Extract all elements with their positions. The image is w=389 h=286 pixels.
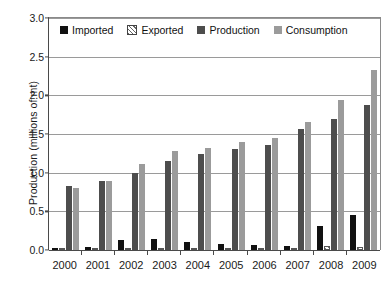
bar-group: [148, 18, 181, 250]
bar-consumption-2009[interactable]: [371, 70, 377, 250]
bar-wrap: [49, 18, 82, 250]
bar-group: [248, 18, 281, 250]
bar-group: [82, 18, 115, 250]
bar-wrap: [248, 18, 281, 250]
bar-wrap: [347, 18, 380, 250]
y-tick-label: 0.5: [29, 205, 44, 217]
y-tick-label: 3.0: [29, 12, 44, 24]
bar-exported-2006[interactable]: [258, 248, 264, 250]
bar-imported-2001[interactable]: [85, 247, 91, 250]
x-tick-label-2005: 2005: [214, 254, 247, 276]
bar-wrap: [314, 18, 347, 250]
bar-groups: [49, 18, 380, 250]
bar-consumption-2003[interactable]: [172, 151, 178, 250]
bar-exported-2005[interactable]: [225, 248, 231, 250]
bar-group: [214, 18, 247, 250]
bar-imported-2008[interactable]: [317, 226, 323, 250]
bar-imported-2004[interactable]: [184, 242, 190, 251]
bar-exported-2008[interactable]: [324, 246, 330, 250]
x-tick-label-2000: 2000: [48, 254, 81, 276]
x-tick-label-2006: 2006: [248, 254, 281, 276]
x-tick-label-2009: 2009: [348, 254, 381, 276]
bar-group: [115, 18, 148, 250]
x-tick-label-2004: 2004: [181, 254, 214, 276]
bar-group: [281, 18, 314, 250]
plot-area: 0.00.51.01.52.02.53.0: [48, 17, 381, 250]
bar-exported-2004[interactable]: [191, 248, 197, 250]
bar-chart-figure: Production (millions of mt) ImportedExpo…: [0, 0, 389, 286]
x-tick-label-2003: 2003: [148, 254, 181, 276]
y-tick-label: 0.0: [29, 244, 44, 256]
bar-imported-2007[interactable]: [284, 246, 290, 250]
bar-wrap: [82, 18, 115, 250]
bar-imported-2000[interactable]: [52, 248, 58, 250]
bar-wrap: [281, 18, 314, 250]
bar-production-2009[interactable]: [364, 105, 370, 250]
gridline: [49, 250, 380, 251]
y-tick-label: 1.5: [29, 128, 44, 140]
bar-group: [314, 18, 347, 250]
plot-inner: 0.00.51.01.52.02.53.0: [49, 18, 380, 250]
bar-consumption-2007[interactable]: [305, 122, 311, 250]
bar-exported-2003[interactable]: [158, 248, 164, 250]
x-tick-label-2001: 2001: [81, 254, 114, 276]
bar-imported-2003[interactable]: [151, 239, 157, 250]
x-tick-label-2007: 2007: [281, 254, 314, 276]
bar-group: [49, 18, 82, 250]
bar-consumption-2000[interactable]: [73, 188, 79, 250]
bar-production-2005[interactable]: [232, 149, 238, 250]
bar-exported-2009[interactable]: [357, 247, 363, 250]
bar-group: [347, 18, 380, 250]
bar-consumption-2005[interactable]: [239, 142, 245, 250]
bar-consumption-2004[interactable]: [205, 148, 211, 250]
x-axis-labels: 2000200120022003200420052006200720082009: [48, 254, 381, 276]
y-tick-label: 1.0: [29, 167, 44, 179]
bar-consumption-2008[interactable]: [338, 100, 344, 250]
bar-exported-2007[interactable]: [291, 248, 297, 250]
bar-wrap: [214, 18, 247, 250]
y-tick-label: 2.5: [29, 51, 44, 63]
bar-production-2000[interactable]: [66, 186, 72, 250]
x-tick-label-2002: 2002: [115, 254, 148, 276]
bar-imported-2006[interactable]: [251, 245, 257, 250]
bar-production-2003[interactable]: [165, 161, 171, 250]
bar-production-2004[interactable]: [198, 154, 204, 250]
x-tick-label-2008: 2008: [314, 254, 347, 276]
bar-imported-2005[interactable]: [218, 244, 224, 250]
bar-exported-2000[interactable]: [59, 248, 65, 250]
bar-wrap: [181, 18, 214, 250]
bar-exported-2002[interactable]: [125, 248, 131, 250]
bar-exported-2001[interactable]: [92, 248, 98, 250]
bar-group: [181, 18, 214, 250]
bar-consumption-2006[interactable]: [272, 138, 278, 250]
bar-imported-2009[interactable]: [350, 215, 356, 250]
y-tick-label: 2.0: [29, 89, 44, 101]
bar-consumption-2002[interactable]: [139, 164, 145, 250]
bar-imported-2002[interactable]: [118, 240, 124, 250]
bar-production-2008[interactable]: [331, 119, 337, 250]
bar-wrap: [148, 18, 181, 250]
bar-wrap: [115, 18, 148, 250]
bar-production-2006[interactable]: [265, 145, 271, 250]
bar-production-2002[interactable]: [132, 173, 138, 250]
bar-production-2001[interactable]: [99, 181, 105, 250]
bar-production-2007[interactable]: [298, 129, 304, 250]
bar-consumption-2001[interactable]: [106, 181, 112, 250]
